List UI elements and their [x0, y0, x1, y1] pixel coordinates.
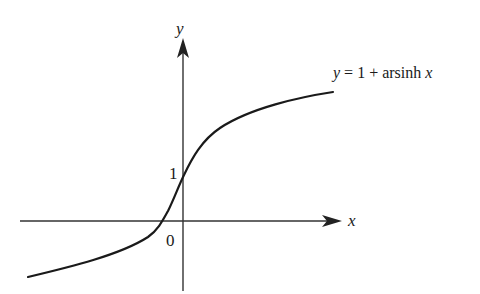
x-axis-label: x — [347, 211, 356, 230]
equation-body: = 1 + arsinh — [340, 64, 425, 81]
origin-label: 0 — [166, 231, 175, 250]
arsinh-curve — [28, 92, 333, 277]
equation-x: x — [424, 64, 432, 81]
graph-canvas: y x 0 1 y = 1 + arsinh x — [0, 0, 480, 294]
y-axis-label: y — [174, 19, 184, 38]
curve-equation-label: y = 1 + arsinh x — [331, 64, 432, 82]
y-tick-label-1: 1 — [169, 164, 178, 183]
